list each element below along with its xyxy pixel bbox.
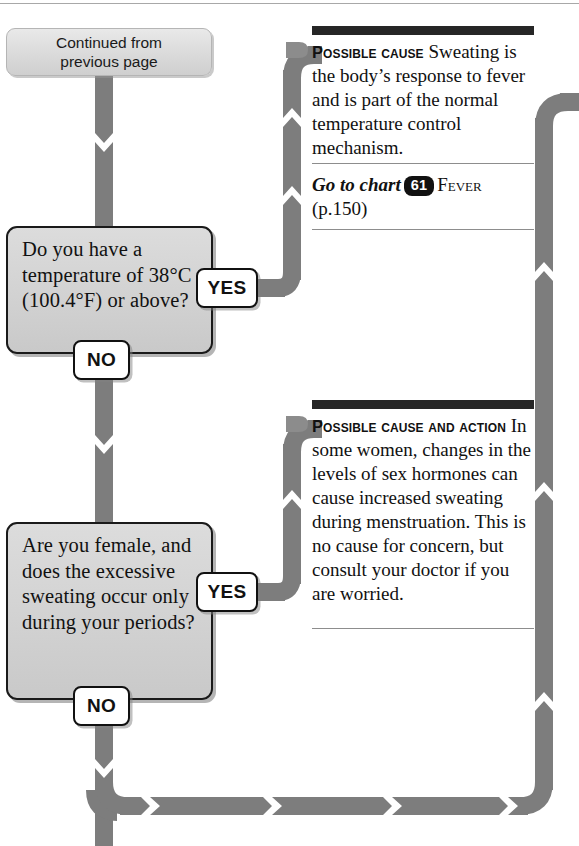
continued-line-2: previous page [60, 53, 157, 70]
question-temperature-yes-pill[interactable]: YES [196, 268, 258, 308]
advice-menstruation-top-bar [312, 400, 534, 409]
advice-pointer-icon [286, 414, 310, 434]
question-box-temperature[interactable]: Do you have a temperature of 38°C (100.4… [6, 226, 213, 354]
continued-box-text: Continued from previous page [56, 33, 162, 71]
continued-from-previous-page-box: Continued from previous page [6, 28, 212, 76]
question-temperature-no-pill[interactable]: NO [73, 340, 130, 380]
advice-fever-top-bar [312, 26, 534, 35]
yes-label: YES [208, 277, 247, 299]
chart-name-label: Fever [437, 174, 482, 195]
advice-menstruation-lead: Possible cause and action [312, 417, 506, 435]
advice-fever-action[interactable]: Go to chart61Fever (p.150) [312, 173, 534, 221]
advice-menstruation-body: In some women, changes in the levels of … [312, 415, 531, 604]
go-to-chart-label: Go to chart [312, 174, 401, 195]
question-periods-text: Are you female, and does the excessive s… [22, 533, 201, 635]
question-box-periods[interactable]: Are you female, and does the excessive s… [6, 522, 213, 700]
advice-fever-lead: Possible cause [312, 43, 424, 61]
chart-number-badge: 61 [404, 176, 435, 196]
chart-page-ref: (p.150) [312, 198, 367, 219]
advice-fever-divider-top [312, 163, 534, 164]
continued-line-1: Continued from [56, 34, 162, 51]
flowchart-page: .ln{fill:none;stroke:#7d7d7d;stroke-widt… [0, 0, 579, 846]
no-label: NO [87, 349, 116, 371]
advice-fever-text: Possible cause Sweating is the body’s re… [312, 40, 534, 160]
advice-menstruation-text: Possible cause and action In some women,… [312, 414, 534, 606]
no-label: NO [87, 695, 116, 717]
question-periods-no-pill[interactable]: NO [73, 686, 130, 726]
yes-label: YES [208, 581, 247, 603]
advice-pointer-icon [286, 40, 310, 60]
question-temperature-text: Do you have a temperature of 38°C (100.4… [22, 237, 201, 314]
advice-fever-divider-bottom [312, 229, 534, 230]
advice-menstruation-divider-bottom [312, 628, 534, 629]
question-periods-yes-pill[interactable]: YES [196, 572, 258, 612]
